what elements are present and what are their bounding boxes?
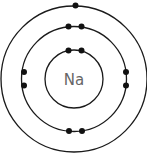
electron-middle-5 xyxy=(123,69,129,75)
electron-outer-1 xyxy=(73,3,79,9)
electron-middle-2 xyxy=(79,24,85,30)
electron-middle-7 xyxy=(66,128,72,134)
electron-middle-1 xyxy=(66,24,72,30)
electron-middle-3 xyxy=(21,69,27,75)
electron-middle-8 xyxy=(79,128,85,134)
nucleus-symbol: Na xyxy=(64,71,84,89)
electron-middle-6 xyxy=(123,83,129,89)
bohr-diagram: Na xyxy=(0,0,147,159)
electron-middle-4 xyxy=(21,83,27,89)
electron-inner-1 xyxy=(66,48,72,54)
electron-inner-2 xyxy=(79,48,85,54)
